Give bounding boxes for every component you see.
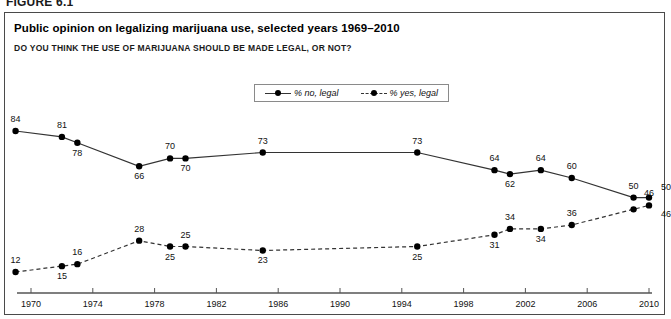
data-point-label: 15 bbox=[57, 271, 67, 281]
data-point-label: 25 bbox=[412, 252, 422, 262]
x-axis-tick-label: 2006 bbox=[577, 299, 597, 309]
data-point-label: 50 bbox=[661, 182, 671, 192]
data-point-label: 70 bbox=[165, 141, 175, 151]
x-axis-tick-label: 1982 bbox=[206, 299, 226, 309]
data-point-label: 78 bbox=[72, 148, 82, 158]
x-axis-tick-label: 1990 bbox=[330, 299, 350, 309]
x-axis-tick-label: 1998 bbox=[454, 299, 474, 309]
legend-entry-no-legal: % no, legal bbox=[265, 88, 339, 98]
x-axis-tick-label: 2010 bbox=[639, 299, 659, 309]
x-axis-tick-label: 1994 bbox=[392, 299, 412, 309]
data-point-label: 12 bbox=[11, 255, 21, 265]
data-point-label: 81 bbox=[57, 120, 67, 130]
data-point-label: 16 bbox=[72, 247, 82, 257]
legend-entry-yes-legal: % yes, legal bbox=[361, 88, 439, 98]
data-point-label: 36 bbox=[567, 208, 577, 218]
data-point-label: 23 bbox=[258, 255, 268, 265]
data-point-label: 46 bbox=[644, 188, 654, 198]
data-point-label: 70 bbox=[180, 163, 190, 173]
chart-title: Public opinion on legalizing marijuana u… bbox=[14, 22, 400, 34]
chart-subtitle: DO YOU THINK THE USE OF MARIJUANA SHOULD… bbox=[14, 43, 352, 53]
data-point-label: 73 bbox=[258, 136, 268, 146]
x-axis-tick-label: 2002 bbox=[515, 299, 535, 309]
legend-marker-solid-line-icon bbox=[265, 89, 291, 98]
legend-label-yes-legal: % yes, legal bbox=[390, 88, 439, 98]
legend-label-no-legal: % no, legal bbox=[294, 88, 339, 98]
data-point-label: 31 bbox=[489, 240, 499, 250]
data-point-label: 62 bbox=[505, 179, 515, 189]
figure-label: FIGURE 6.1 bbox=[6, 0, 73, 9]
data-point-label: 60 bbox=[567, 161, 577, 171]
data-point-label: 25 bbox=[165, 252, 175, 262]
data-point-label: 66 bbox=[134, 171, 144, 181]
data-point-label: 34 bbox=[505, 212, 515, 222]
data-point-label: 28 bbox=[134, 224, 144, 234]
data-point-label: 46 bbox=[661, 209, 671, 219]
data-point-label: 84 bbox=[11, 114, 21, 124]
data-point-label: 64 bbox=[536, 153, 546, 163]
legend-marker-dashed-line-icon bbox=[361, 89, 387, 98]
data-point-label: 25 bbox=[180, 230, 190, 240]
x-axis-tick-label: 1970 bbox=[21, 299, 41, 309]
x-axis-tick-label: 1978 bbox=[145, 299, 165, 309]
data-point-label: 73 bbox=[412, 136, 422, 146]
data-point-label: 50 bbox=[629, 181, 639, 191]
chart-legend: % no, legal % yes, legal bbox=[254, 84, 449, 102]
x-axis-tick-label: 1986 bbox=[268, 299, 288, 309]
data-point-label: 64 bbox=[489, 153, 499, 163]
x-axis-tick-label: 1974 bbox=[83, 299, 103, 309]
data-point-label: 34 bbox=[536, 234, 546, 244]
